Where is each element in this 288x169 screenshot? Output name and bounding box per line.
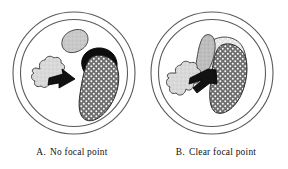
panel-b-caption-text: Clear focal point [189,147,256,157]
panel-a-caption: A.No focal point [0,146,144,158]
panel-a-label: A. [36,147,46,157]
panel-a: A.No focal point [0,0,144,169]
figure-root: A.No focal point [0,0,288,169]
panel-a-illustration [0,0,144,146]
panel-b-illustration [144,0,288,146]
panel-b: B.Clear focal point [144,0,288,169]
panel-b-caption: B.Clear focal point [144,146,288,158]
panel-a-caption-text: No focal point [50,147,108,157]
panel-b-label: B. [176,147,185,157]
